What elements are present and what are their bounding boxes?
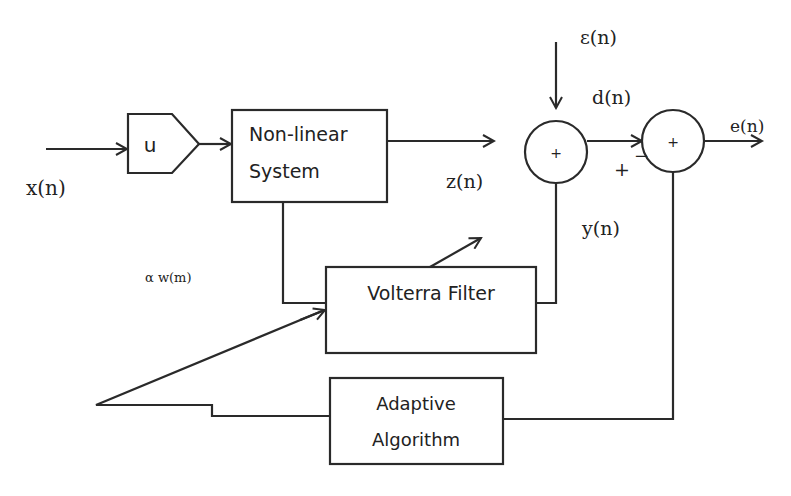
weight-update-arrow [300, 310, 325, 320]
plus-sign-label: + [614, 158, 630, 180]
desired-signal-label: d(n) [592, 86, 631, 108]
adaptive-algorithm-block [330, 378, 503, 464]
z-signal-label: z(n) [446, 170, 483, 192]
noise-signal-label: ε(n) [580, 26, 617, 48]
minus-sign-label: − [634, 145, 649, 166]
gain-block [128, 114, 199, 173]
weights-label: α w(m) [145, 270, 192, 285]
filter-output-label: y(n) [581, 217, 620, 239]
filter-to-sum-line [536, 183, 556, 303]
volterra-filter-block [326, 267, 536, 353]
weight-update-line [96, 311, 330, 416]
block-diagram: u Non-linear System Volterra Filter Adap… [0, 0, 791, 496]
system-to-filter-line [283, 202, 326, 303]
adaptive-label-1: Adaptive [376, 393, 456, 414]
nonlinear-label-1: Non-linear [249, 123, 348, 145]
nonlinear-label-2: System [249, 160, 320, 182]
volterra-label: Volterra Filter [367, 282, 495, 304]
filter-adapt-arrow [430, 238, 481, 267]
gain-label: u [144, 133, 157, 157]
sum2-sign: + [667, 134, 679, 150]
adaptive-label-2: Algorithm [372, 429, 460, 450]
sum1-sign: + [550, 145, 562, 161]
input-signal-label: x(n) [26, 176, 66, 200]
error-signal-label: e(n) [730, 116, 764, 136]
